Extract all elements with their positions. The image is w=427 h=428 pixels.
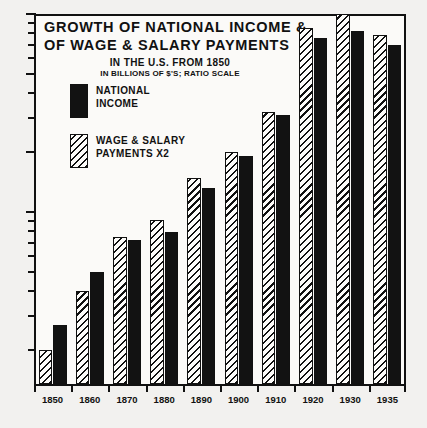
chart-title-line-1: GROWTH OF NATIONAL INCOME & [44, 18, 324, 36]
bar-1930-national-income [351, 31, 365, 384]
x-axis-tick [257, 386, 259, 392]
legend-label-line-2: PAYMENTS X2 [96, 148, 185, 161]
bar-1900-national-income [239, 156, 253, 384]
y-axis: 10521 [0, 0, 34, 428]
bar-1935-wage-salary [373, 35, 387, 384]
bar-1920-national-income [314, 38, 328, 384]
x-axis-tick-label: 1850 [33, 394, 73, 405]
x-axis-tick-label: 1930 [330, 394, 370, 405]
legend-label-line-2: INCOME [96, 98, 150, 111]
x-axis-tick-label: 1880 [144, 394, 184, 405]
bar-1870-wage-salary [113, 237, 127, 384]
chart-subtitle: IN THE U.S. FROM 1850 [44, 57, 296, 68]
legend-swatch-hatch-icon [70, 134, 88, 168]
x-axis-tick [332, 386, 334, 392]
x-axis-tick-label: 1910 [256, 394, 296, 405]
x-axis-tick [404, 386, 406, 392]
bar-1930-wage-salary [336, 14, 350, 384]
x-axis-tick [294, 386, 296, 392]
legend-swatch-solid-icon [70, 84, 88, 118]
legend-label-line-1: WAGE & SALARY [96, 135, 185, 146]
x-axis-tick-label: 1890 [181, 394, 221, 405]
bar-1890-national-income [202, 188, 216, 384]
x-axis-tick-label: 1900 [219, 394, 259, 405]
bar-1890-wage-salary [187, 178, 201, 384]
x-axis-tick-label: 1860 [70, 394, 110, 405]
x-axis-tick [71, 386, 73, 392]
bar-1935-national-income [388, 45, 402, 384]
bar-1910-national-income [276, 115, 290, 384]
legend-label-national-income: NATIONAL INCOME [96, 85, 150, 110]
bar-1860-national-income [90, 272, 104, 384]
x-axis-tick [34, 386, 36, 392]
bar-1880-wage-salary [150, 220, 164, 384]
bar-1850-wage-salary [39, 350, 53, 384]
bar-1910-wage-salary [262, 112, 276, 384]
bar-1860-wage-salary [76, 291, 90, 384]
bar-1850-national-income [53, 325, 67, 384]
x-axis-tick [183, 386, 185, 392]
bar-1880-national-income [165, 232, 179, 384]
x-axis-tick-label: 1920 [293, 394, 333, 405]
legend-label-wage-salary: WAGE & SALARY PAYMENTS X2 [96, 135, 185, 160]
x-axis-tick [369, 386, 371, 392]
chart-subtitle-secondary: IN BILLIONS OF $'S; RATIO SCALE [44, 69, 296, 78]
chart-title-line-2: OF WAGE & SALARY PAYMENTS [44, 36, 324, 54]
x-axis-tick-label: 1935 [367, 394, 407, 405]
x-axis-tick [220, 386, 222, 392]
bar-1900-wage-salary [225, 152, 239, 384]
x-axis: 1850186018701880189019001910192019301935 [34, 386, 406, 416]
x-axis-tick [108, 386, 110, 392]
chart-title-block: GROWTH OF NATIONAL INCOME & OF WAGE & SA… [44, 18, 324, 78]
x-axis-tick-label: 1870 [107, 394, 147, 405]
x-axis-tick [146, 386, 148, 392]
chart-page: 10521 1850186018701880189019001910192019… [0, 0, 427, 428]
bar-1920-wage-salary [299, 28, 313, 384]
bar-1870-national-income [128, 240, 142, 384]
legend-label-line-1: NATIONAL [96, 85, 150, 96]
